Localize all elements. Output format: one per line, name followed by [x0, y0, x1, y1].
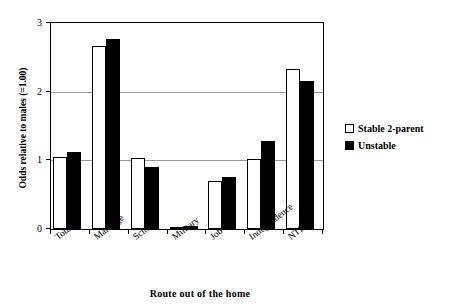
bar	[53, 157, 67, 229]
bar-group	[129, 23, 168, 229]
y-axis-tick-label: 3	[37, 17, 42, 28]
x-axis-title: Route out of the home	[0, 288, 400, 299]
black-square-icon	[345, 141, 354, 150]
y-axis-tick-labels: 0123	[26, 22, 46, 228]
x-axis-category-labels: TotalMarriageSchoolMilitaryJobIndependen…	[50, 234, 324, 292]
bar-group	[90, 23, 129, 229]
white-square-icon	[345, 124, 354, 133]
bar	[208, 181, 222, 229]
plot-area	[50, 22, 324, 230]
bar	[222, 177, 236, 229]
bar	[92, 46, 106, 229]
chart-legend: Stable 2-parentUnstable	[345, 122, 449, 156]
y-axis-tick-label: 0	[37, 223, 42, 234]
bar-group	[284, 23, 323, 229]
y-axis-tick-label: 1	[37, 154, 42, 165]
bar-group	[245, 23, 284, 229]
bar-chart-figure: Odds relative to males (=1.00) 0123 Tota…	[0, 0, 451, 307]
bar	[106, 39, 120, 229]
legend-item-label: Stable 2-parent	[358, 123, 424, 134]
y-axis-tick-label: 2	[37, 85, 42, 96]
bar-group	[206, 23, 245, 229]
bar	[300, 81, 314, 229]
bar	[247, 159, 261, 229]
bar	[67, 152, 81, 229]
legend-item: Stable 2-parent	[345, 122, 449, 134]
bar-group	[51, 23, 90, 229]
bar	[131, 158, 145, 229]
legend-item-label: Unstable	[358, 140, 396, 151]
legend-item: Unstable	[345, 139, 449, 151]
bar-group	[168, 23, 207, 229]
bar-groups	[51, 23, 323, 229]
